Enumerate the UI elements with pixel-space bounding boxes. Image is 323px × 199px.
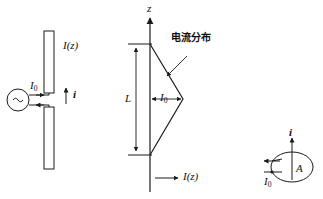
loop-moment-label: i	[289, 127, 292, 138]
physics-figure: I(z) I0 i z L I0 I(z) 电流分布 A i I0	[0, 0, 323, 199]
loop-feed-current-subscript: 0	[268, 180, 272, 189]
z-axis-label: z	[147, 3, 151, 14]
dipole-lower-rod	[44, 107, 54, 169]
current-distribution-annotation: 电流分布	[171, 33, 211, 43]
length-dimension-L	[128, 44, 152, 155]
annotation-leader-line	[167, 56, 187, 76]
dipole-element-current-label: i	[73, 89, 76, 100]
peak-current-subscript: 0	[164, 96, 168, 105]
dipole-feed-current-subscript: 0	[34, 84, 38, 93]
antenna-length-label: L	[125, 93, 131, 104]
dipole-upper-rod	[44, 31, 54, 93]
peak-current-label: I0	[160, 92, 168, 105]
dipole-rod-current-label: I(z)	[63, 40, 78, 51]
loop-area-label: A	[296, 163, 303, 174]
loop-feed-current-label: I0	[264, 176, 272, 189]
ac-source-symbol	[7, 89, 29, 111]
dipole-feed-current-label: I0	[30, 80, 38, 93]
current-function-label: I(z)	[183, 171, 198, 182]
